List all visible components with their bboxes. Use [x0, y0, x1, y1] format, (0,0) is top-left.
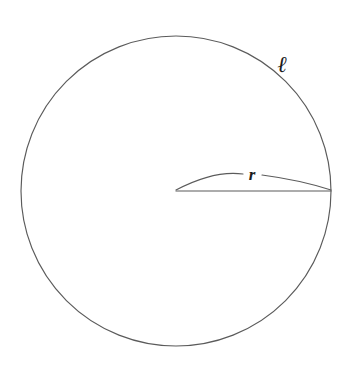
- radius-label: r: [249, 165, 256, 184]
- radius-arc-left: [176, 173, 243, 190]
- radius-arc-right: [262, 175, 331, 190]
- circle-radius-diagram: r ℓ: [0, 0, 352, 377]
- figure-canvas: r ℓ: [0, 0, 352, 377]
- circumference-label: ℓ: [277, 51, 287, 77]
